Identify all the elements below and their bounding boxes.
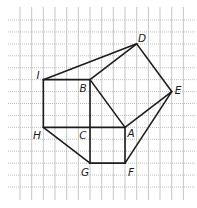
edge-ab [90, 80, 125, 128]
vertex-label-c: C [79, 130, 86, 141]
geometry-diagram: D I B E H C A G F [0, 0, 197, 208]
vertex-label-h: H [33, 130, 41, 141]
vertex-label-f: F [128, 167, 134, 178]
vertex-label-b: B [79, 83, 86, 94]
vertex-label-i: I [36, 70, 39, 81]
grid [8, 7, 195, 200]
vertex-label-e: E [175, 85, 182, 96]
vertex-label-a: A [127, 128, 134, 139]
diagram-canvas [0, 0, 197, 208]
vertex-label-g: G [81, 167, 89, 178]
vertex-label-d: D [138, 33, 146, 44]
